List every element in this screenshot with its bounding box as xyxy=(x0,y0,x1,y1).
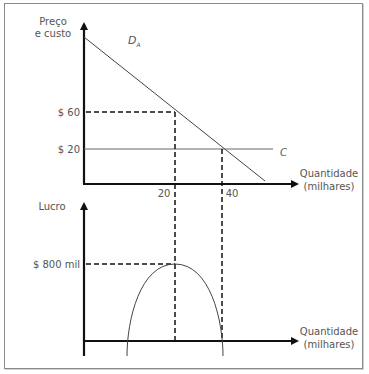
x-tick-20: 20 xyxy=(158,188,171,199)
quantity-x-label-bottom-line1: Quantidade xyxy=(300,326,358,337)
quantity-x-label-bottom-line2: (milhares) xyxy=(304,339,355,350)
demand-label: DA xyxy=(128,34,141,48)
quantity-x-label-top-line1: Quantidade xyxy=(300,168,358,179)
cost-label: C xyxy=(280,147,287,158)
y-tick-60: $ 60 xyxy=(58,107,80,118)
profit-curve xyxy=(127,264,223,356)
x-tick-40: 40 xyxy=(226,188,239,199)
price-y-label-line2: e custo xyxy=(35,28,71,39)
profit-y-label: Lucro xyxy=(38,201,65,212)
profit-chart: Lucro $ 800 mil Quantidade (milhares) xyxy=(33,201,358,356)
price-profit-diagram: Preço e custo DA C $ 60 $ 20 20 40 Quant… xyxy=(0,0,369,374)
demand-line xyxy=(84,37,265,181)
y-tick-20: $ 20 xyxy=(58,144,80,155)
y-tick-800: $ 800 mil xyxy=(33,259,80,270)
quantity-x-label-top-line2: (milhares) xyxy=(304,181,355,192)
price-y-label-line1: Preço xyxy=(39,16,67,27)
